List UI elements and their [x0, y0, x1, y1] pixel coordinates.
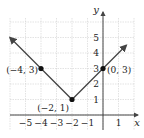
data-point: [69, 97, 74, 102]
y-axis-label: y: [92, 4, 99, 15]
point-label: (−4, 3): [6, 65, 38, 75]
y-tick-label: 1: [93, 95, 99, 105]
point-label: (−2, 1): [37, 103, 69, 113]
x-tick-label: −4: [34, 118, 48, 128]
x-tick-label: −2: [65, 118, 78, 128]
data-point: [100, 66, 105, 71]
tick-labels: −5−4−3−2−1112345: [19, 33, 122, 129]
x-tick-label: 1: [116, 118, 122, 128]
x-tick-label: −5: [19, 118, 33, 128]
y-tick-label: 5: [93, 33, 99, 43]
data-point: [38, 66, 43, 71]
function-graph: xy −5−4−3−2−1112345 (−4, 3)(−2, 1)(0, 3): [0, 0, 144, 138]
y-tick-label: 4: [93, 48, 99, 58]
labeled-points: (−4, 3)(−2, 1)(0, 3): [6, 65, 131, 113]
x-tick-label: −1: [81, 118, 94, 128]
point-label: (0, 3): [107, 65, 131, 75]
x-axis-label: x: [134, 117, 140, 128]
y-tick-label: 3: [93, 64, 99, 74]
y-tick-label: 2: [93, 79, 99, 89]
x-tick-label: −3: [50, 118, 64, 128]
